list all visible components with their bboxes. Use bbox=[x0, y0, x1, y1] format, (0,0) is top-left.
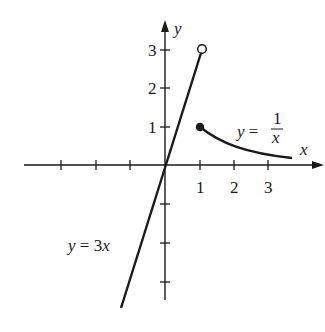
x-tick-label-3: 3 bbox=[264, 178, 273, 197]
line-y-3x bbox=[121, 53, 201, 308]
x-tick-label-1: 1 bbox=[196, 178, 205, 197]
y-tick-label-2: 2 bbox=[148, 79, 157, 98]
x-tick-label-2: 2 bbox=[230, 178, 239, 197]
svg-text:x: x bbox=[271, 128, 280, 147]
x-axis-arrow-icon bbox=[312, 161, 324, 169]
svg-text:1: 1 bbox=[273, 109, 282, 128]
open-circle-point bbox=[198, 45, 207, 54]
y-tick-label-3: 3 bbox=[148, 41, 157, 60]
x-axis-label: x bbox=[299, 140, 308, 159]
y-axis-arrow-icon bbox=[161, 20, 169, 32]
svg-text:y =: y = bbox=[235, 122, 258, 141]
piecewise-graph: y x 1 2 3 1 2 3 y = 1 x y = 3x bbox=[0, 0, 325, 332]
y-axis-label: y bbox=[172, 19, 182, 38]
x-axis bbox=[24, 160, 324, 170]
closed-dot-point bbox=[196, 123, 204, 131]
label-reciprocal: y = 1 x bbox=[235, 109, 283, 147]
y-tick-label-1: 1 bbox=[148, 118, 157, 137]
label-line: y = 3x bbox=[66, 236, 110, 255]
